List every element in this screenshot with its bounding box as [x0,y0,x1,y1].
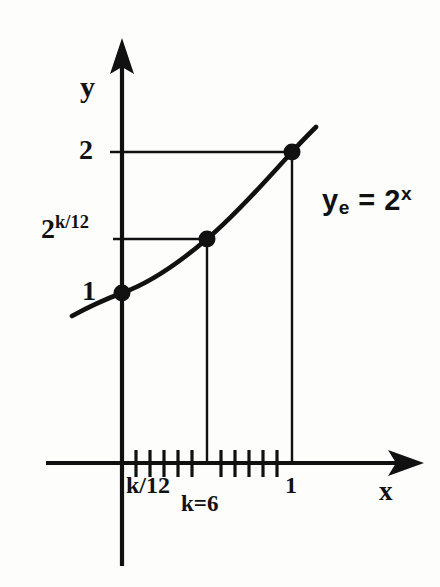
x-tick-label-1: 1 [285,473,297,497]
equation-label: ye = 2x [322,186,412,215]
y-pow-exponent: k/12 [55,212,89,232]
x-tick-label-k-12: k/12 [126,473,170,497]
x-axis-label: x [379,478,393,505]
math-diagram-svg [0,0,440,587]
y-pow-base: 2 [41,213,55,244]
y-tick-label-1: 1 [82,277,96,305]
figure-container: y x 2 2k/12 1 k/12 k=6 1 ye = 2x [0,0,440,587]
equation-rhs-exponent: x [401,183,412,204]
y-axis-label: y [80,72,95,102]
equation-lhs-subscript: e [339,197,350,218]
exponential-curve [72,127,316,316]
datapoint-xk6-ypow [199,231,216,248]
y-tick-label-2: 2 [79,136,93,164]
equation-operator: = [358,184,375,216]
equation-rhs-base: 2 [384,184,401,216]
x-annotation-k-equals-6: k=6 [181,492,218,515]
y-tick-label-2-pow-k-12: 2k/12 [41,215,89,243]
datapoint-x0-y1 [114,285,131,302]
datapoint-x1-y2 [284,144,301,161]
equation-lhs-var: y [322,184,339,216]
